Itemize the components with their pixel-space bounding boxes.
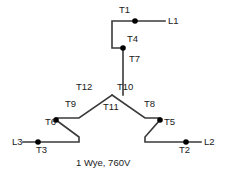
lead-label-t9: T9: [65, 99, 76, 109]
lead-label-t2: T2: [179, 145, 190, 155]
diagram-caption: 1 Wye, 760V: [76, 158, 130, 168]
line-terminal-l3: L3: [12, 137, 23, 147]
wiring-schematic: [0, 0, 225, 176]
node-t4-t7: [120, 45, 126, 51]
lead-label-t10: T10: [117, 82, 133, 92]
lead-label-t11: T11: [103, 102, 119, 112]
lead-label-t8: T8: [144, 99, 155, 109]
node-t1: [132, 18, 138, 24]
node-t5-t8: [157, 117, 163, 123]
wye-connection-diagram: L1 L2 L3 T1 T4 T7 T12 T10 T9 T11 T8 T6 T…: [0, 0, 225, 176]
lead-label-t5: T5: [164, 117, 175, 127]
lead-label-t3: T3: [36, 145, 47, 155]
lead-label-t4: T4: [127, 34, 138, 44]
lead-label-t12: T12: [76, 82, 92, 92]
lead-label-t7: T7: [129, 54, 140, 64]
lead-label-t1: T1: [119, 5, 130, 15]
lead-label-t6: T6: [45, 117, 56, 127]
line-terminal-l2: L2: [204, 137, 215, 147]
line-terminal-l1: L1: [168, 16, 179, 26]
